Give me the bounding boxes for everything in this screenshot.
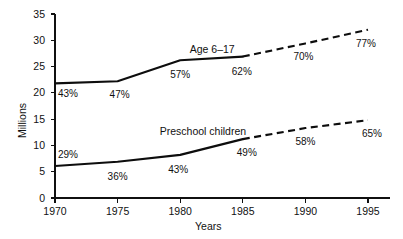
series-line-solid-1: [55, 139, 243, 166]
point-label: 43%: [168, 165, 188, 175]
point-label: 43%: [58, 89, 78, 99]
x-tick-label: 1975: [98, 206, 138, 217]
point-label: 62%: [232, 67, 252, 77]
point-label: 70%: [293, 52, 313, 62]
point-label: 49%: [237, 148, 257, 158]
point-label: 29%: [58, 150, 78, 160]
series-name-label: Preschool children: [160, 126, 246, 137]
y-tick-label: 5: [25, 166, 45, 177]
point-label: 57%: [170, 70, 190, 80]
y-tick-label: 35: [25, 9, 45, 20]
chart-container: Millions Years 0510152025303519701975198…: [0, 0, 403, 239]
point-label: 47%: [110, 90, 130, 100]
x-tick-label: 1985: [223, 206, 263, 217]
x-tick-label: 1980: [160, 206, 200, 217]
y-tick-label: 0: [25, 193, 45, 204]
y-tick-label: 20: [25, 87, 45, 98]
x-tick-label: 1995: [348, 206, 388, 217]
point-label: 77%: [356, 39, 376, 49]
point-label: 65%: [362, 129, 382, 139]
y-tick-label: 30: [25, 35, 45, 46]
y-tick-label: 15: [25, 114, 45, 125]
x-tick-label: 1970: [35, 206, 75, 217]
chart-plot-area: [0, 0, 403, 239]
point-label: 58%: [295, 137, 315, 147]
y-tick-label: 25: [25, 61, 45, 72]
y-tick-label: 10: [25, 140, 45, 151]
x-axis-title: Years: [195, 221, 221, 232]
series-name-label: Age 6–17: [190, 44, 235, 55]
point-label: 36%: [108, 172, 128, 182]
series-line-solid-0: [55, 57, 243, 84]
x-tick-label: 1990: [285, 206, 325, 217]
